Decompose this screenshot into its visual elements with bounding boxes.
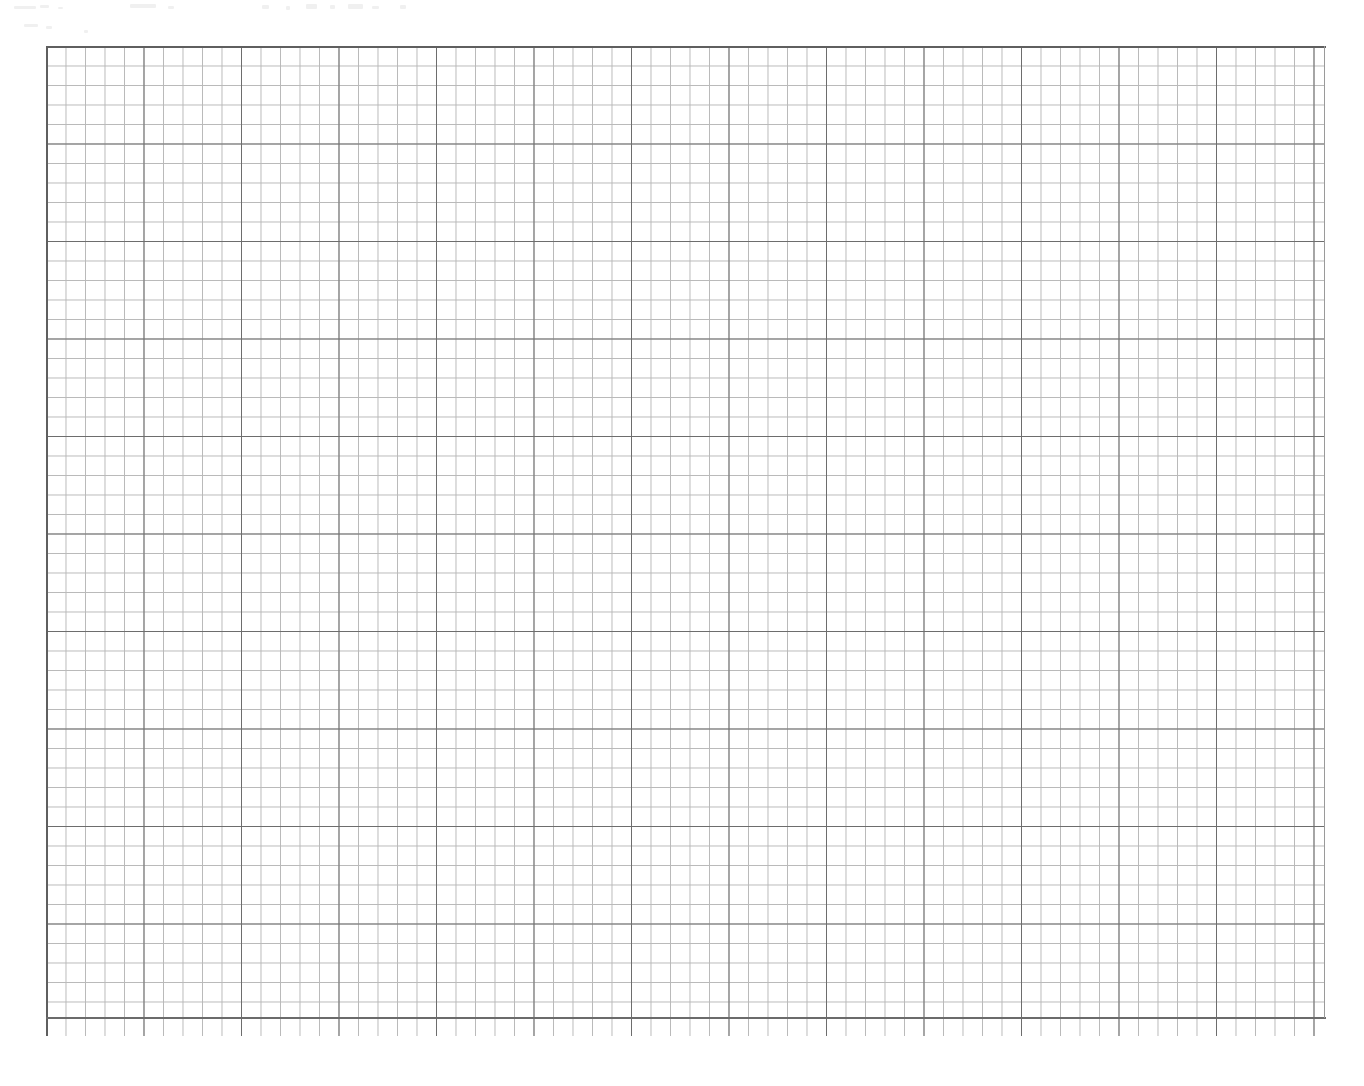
major-gridlines: [46, 46, 1325, 1018]
grid-frame-left: [46, 46, 48, 1036]
graph-paper-page: [0, 0, 1364, 1086]
grid-frame-top: [46, 46, 1326, 48]
major-gridlines-underhang: [46, 1018, 1325, 1036]
grid-frame-bottom: [46, 1017, 1326, 1019]
scanner-noise-artifact: [0, 0, 520, 36]
grid-frame-right: [1324, 46, 1325, 1018]
graph-paper-grid: [46, 46, 1325, 1018]
